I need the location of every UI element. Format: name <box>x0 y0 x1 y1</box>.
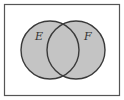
set-f-label: F <box>83 30 92 43</box>
set-e-label: E <box>34 30 43 43</box>
venn-diagram: E F <box>0 0 124 100</box>
